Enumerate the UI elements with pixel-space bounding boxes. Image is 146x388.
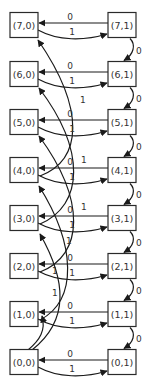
edge-label-0: 0 <box>67 205 73 215</box>
long-edge-label: 1 <box>80 95 86 105</box>
edge-label-0: 0 <box>67 157 73 167</box>
node-label: (3,0) <box>13 213 36 224</box>
edge-vertical-zero <box>124 232 133 253</box>
node-label: (6,0) <box>13 69 36 80</box>
edge-label-1: 1 <box>69 172 75 182</box>
edge-label-0: 0 <box>67 253 73 263</box>
edge-label-0: 0 <box>67 109 73 119</box>
node-5-0: (5,0) <box>10 110 38 135</box>
edge-label-1: 1 <box>69 76 75 86</box>
node-3-1: (3,1) <box>108 206 136 231</box>
node-2-1: (2,1) <box>108 254 136 279</box>
edge-label-1: 1 <box>69 364 75 374</box>
node-7-1: (7,1) <box>108 13 136 38</box>
long-edge-label: 1 <box>81 155 87 165</box>
node-0-1: (0,1) <box>108 350 136 375</box>
node-label: (0,0) <box>13 357 36 368</box>
edge-label-0: 0 <box>67 349 73 359</box>
node-6-1: (6,1) <box>108 62 136 87</box>
edge-label-0: 0 <box>67 61 73 71</box>
edge-label-0: 0 <box>67 12 73 22</box>
edge-label-0: 0 <box>136 94 142 104</box>
edge-label-1: 1 <box>69 316 75 326</box>
node-label: (7,0) <box>13 20 36 31</box>
node-label: (2,1) <box>111 261 134 272</box>
node-label: (7,1) <box>111 20 134 31</box>
edge-label-0: 0 <box>136 142 142 152</box>
state-diagram: 1 1 1 1 1 1 0101010101010101 0000000 (7,… <box>0 0 146 388</box>
node-1-0: (1,0) <box>10 302 38 327</box>
long-edge-label: 1 <box>52 266 58 276</box>
edge-label-0: 0 <box>136 46 142 56</box>
edge-label-1: 1 <box>69 124 75 134</box>
node-5-1: (5,1) <box>108 110 136 135</box>
edge-label-0: 0 <box>136 286 142 296</box>
edge-label-0: 0 <box>136 190 142 200</box>
node-3-0: (3,0) <box>10 206 38 231</box>
edge-label-1: 1 <box>69 220 75 230</box>
edge-vertical-zero <box>124 328 133 349</box>
node-label: (3,1) <box>111 213 134 224</box>
edge-label-0: 0 <box>136 334 142 344</box>
node-label: (5,1) <box>111 117 134 128</box>
edge-label-0: 0 <box>67 301 73 311</box>
long-edge-label: 1 <box>52 288 58 298</box>
node-4-1: (4,1) <box>108 158 136 183</box>
long-edge-label: 1 <box>66 236 72 246</box>
node-6-0: (6,0) <box>10 62 38 87</box>
edge-label-1: 1 <box>69 268 75 278</box>
node-label: (0,1) <box>111 357 134 368</box>
node-1-1: (1,1) <box>108 302 136 327</box>
edge-vertical-zero <box>124 280 133 301</box>
edge-vertical-zero <box>124 136 133 157</box>
node-label: (1,1) <box>111 309 134 320</box>
edge-vertical-zero <box>124 184 133 205</box>
node-label: (1,0) <box>13 309 36 320</box>
edge-label-1: 1 <box>69 27 75 37</box>
node-label: (6,1) <box>111 69 134 80</box>
horizontal-edges: 0101010101010101 <box>38 12 108 376</box>
node-label: (4,1) <box>111 165 134 176</box>
edge-vertical-zero <box>124 88 133 109</box>
node-2-0: (2,0) <box>10 254 38 279</box>
node-7-0: (7,0) <box>10 13 38 38</box>
node-label: (4,0) <box>13 165 36 176</box>
edge-vertical-zero <box>124 39 133 61</box>
node-0-0: (0,0) <box>10 350 38 375</box>
node-label: (2,0) <box>13 261 36 272</box>
node-4-0: (4,0) <box>10 158 38 183</box>
edge-label-0: 0 <box>136 238 142 248</box>
node-label: (5,0) <box>13 117 36 128</box>
long-edge-label: 1 <box>81 202 87 212</box>
